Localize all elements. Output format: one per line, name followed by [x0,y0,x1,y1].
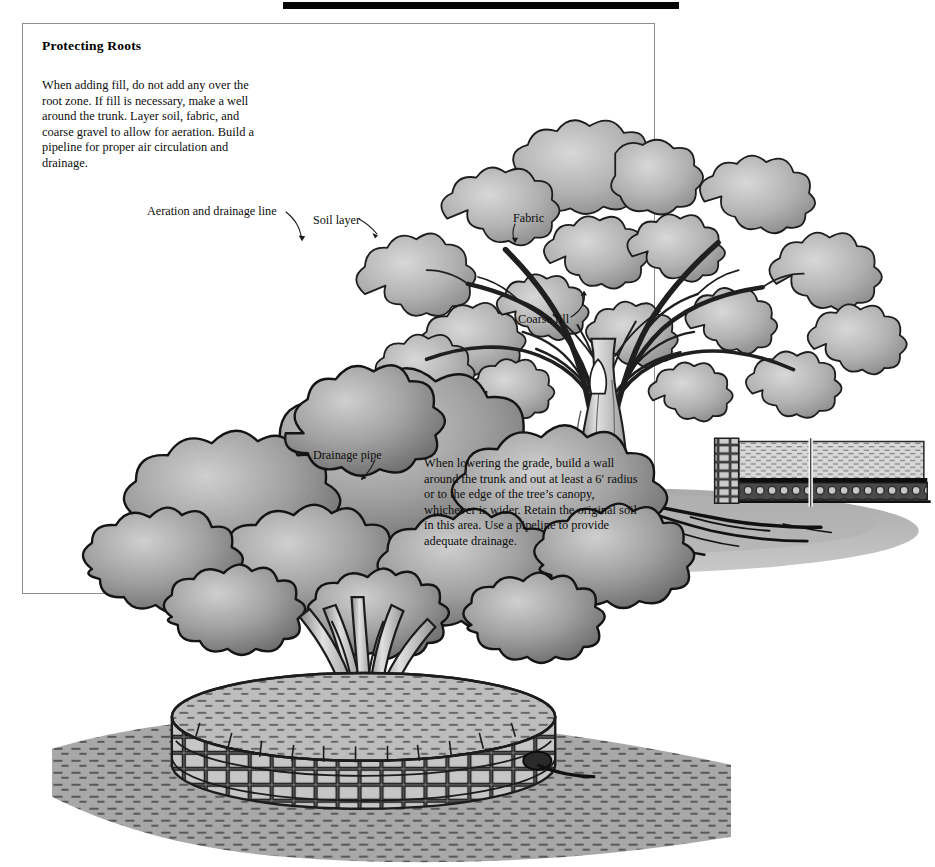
multi-trunk-stems [300,597,436,705]
intro-paragraph: When adding fill, do not add any over th… [42,78,264,172]
callout-coarse-fill: Coarse fill [518,313,569,326]
callout-aeration-and-drainage-line: Aeration and drainage line [147,205,277,218]
stone-retaining-wall [172,673,555,809]
wall-cap-joints [196,723,516,763]
trunk-base-flare [332,691,396,715]
page-title: Protecting Roots [42,38,141,54]
original-soil-island [172,673,555,761]
page-top-black-bar [283,2,679,9]
lower-illustration-retaining-wall [52,318,392,558]
drainage-pipe-outlet [523,752,595,777]
lowered-grade-ground [52,716,731,862]
callout-fabric: Fabric [513,212,544,225]
lower-paragraph: When lowering the grade, build a wall ar… [424,456,648,550]
upper-illustration-mature-tree [262,48,658,303]
callout-soil-layer: Soil layer [313,214,360,227]
right-fill-cross-section [715,438,931,507]
callout-drainage-pipe: Drainage pipe [313,449,382,462]
